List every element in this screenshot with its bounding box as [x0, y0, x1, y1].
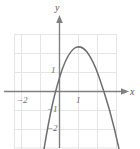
graph-canvas	[0, 0, 140, 149]
parabola-curve	[44, 47, 119, 149]
y-tick-label-minus2: −2	[47, 124, 58, 133]
x-axis-label: x	[130, 87, 134, 97]
x-tick-label-minus2: −2	[17, 96, 28, 105]
y-axis-label: y	[55, 3, 59, 13]
x-axis	[4, 88, 129, 95]
x-tick-label-1: 1	[76, 96, 81, 105]
y-tick-label-1: 1	[51, 66, 56, 75]
parabola-graph-figure: −2 1 1 −1 −2 x y	[0, 0, 140, 149]
y-tick-label-minus1: −1	[47, 105, 58, 114]
